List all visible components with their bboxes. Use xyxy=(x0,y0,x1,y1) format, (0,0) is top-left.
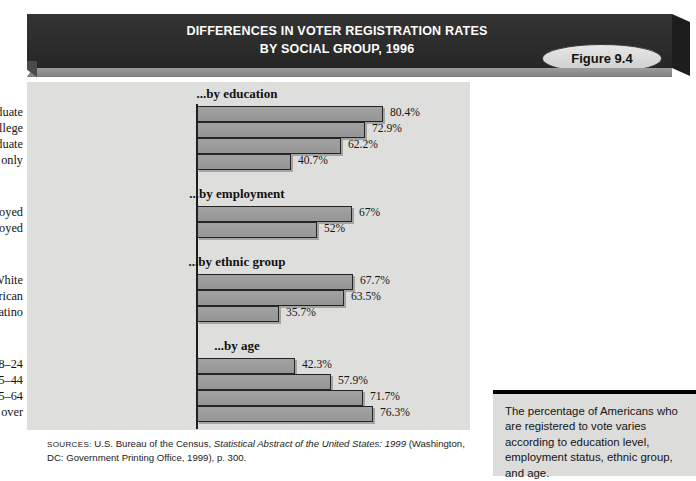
bar-row: Grade school only40.7% xyxy=(27,154,470,170)
bar xyxy=(197,206,352,222)
bar-row: 65 and over76.3% xyxy=(27,406,470,422)
caption-text: The percentage of Americans who are regi… xyxy=(505,404,685,481)
bar-value-label: 35.7% xyxy=(286,306,316,319)
bar-category-label: White xyxy=(0,273,23,288)
bar-row: Employed67% xyxy=(27,206,470,222)
bar-category-label: 45–64 xyxy=(0,389,23,404)
bar-row: African American63.5% xyxy=(27,290,470,306)
bar-category-label: Some college xyxy=(0,121,23,136)
bar-category-label: High school graduate xyxy=(0,137,23,152)
bar-category-label: College graduate xyxy=(0,105,23,120)
caption-top-rule xyxy=(493,390,696,394)
bar-category-label: 18–24 xyxy=(0,357,23,372)
figure-title-line1: DIFFERENCES IN VOTER REGISTRATION RATES xyxy=(49,22,626,40)
bar xyxy=(197,106,383,122)
banner-face: DIFFERENCES IN VOTER REGISTRATION RATES … xyxy=(27,14,672,68)
sources-label: SOURCES: xyxy=(47,440,92,449)
bar xyxy=(197,154,291,170)
bar xyxy=(197,406,373,422)
chart-panel: ...by educationCollege graduate80.4%Some… xyxy=(27,82,470,430)
banner-right-edge xyxy=(672,14,690,76)
bar-row: 45–6471.7% xyxy=(27,390,470,406)
bar-category-label: Employed xyxy=(0,205,23,220)
bar-category-label: African American xyxy=(0,289,23,304)
bar xyxy=(197,306,279,322)
bar-category-label: Grade school only xyxy=(0,153,23,168)
group-title-1: ...by education xyxy=(87,86,387,102)
bar xyxy=(197,374,331,390)
bar-value-label: 72.9% xyxy=(372,122,402,135)
bar-row: Latino35.7% xyxy=(27,306,470,322)
bar-category-label: Unemployed xyxy=(0,221,23,236)
bar-chart: ...by educationCollege graduate80.4%Some… xyxy=(27,82,470,430)
figure-header-banner: DIFFERENCES IN VOTER REGISTRATION RATES … xyxy=(27,14,690,76)
bar-value-label: 62.2% xyxy=(348,138,378,151)
group-title-3: ...by ethnic group xyxy=(87,254,387,270)
banner-bottom-edge xyxy=(27,68,672,77)
bar-row: Some college72.9% xyxy=(27,122,470,138)
bar-row: Unemployed52% xyxy=(27,222,470,238)
caption-box: The percentage of Americans who are regi… xyxy=(493,390,696,476)
bar-value-label: 52% xyxy=(324,222,345,235)
bar-value-label: 40.7% xyxy=(298,154,328,167)
bar-category-label: 65 and over xyxy=(0,405,23,420)
sources-note: SOURCES: U.S. Bureau of the Census, Stat… xyxy=(47,437,467,464)
bar-category-label: 25–44 xyxy=(0,373,23,388)
bar-row: White67.7% xyxy=(27,274,470,290)
bar-row: College graduate80.4% xyxy=(27,106,470,122)
bar xyxy=(197,290,344,306)
bar-value-label: 67.7% xyxy=(360,274,390,287)
sources-text-before: U.S. Bureau of the Census, xyxy=(92,438,214,449)
bar-value-label: 80.4% xyxy=(390,106,420,119)
bar-value-label: 71.7% xyxy=(370,390,400,403)
bar-value-label: 67% xyxy=(359,206,380,219)
bar xyxy=(197,274,353,290)
figure-title-line2: BY SOCIAL GROUP, 1996 xyxy=(49,40,626,58)
bar-value-label: 76.3% xyxy=(380,406,410,419)
bar-row: High school graduate62.2% xyxy=(27,138,470,154)
bar-row: 18–2442.3% xyxy=(27,358,470,374)
bar-category-label: Latino xyxy=(0,305,23,320)
bar-value-label: 57.9% xyxy=(338,374,368,387)
bar xyxy=(197,222,317,238)
bar xyxy=(197,122,365,138)
sources-italic-title: Statistical Abstract of the United State… xyxy=(214,438,406,449)
bar xyxy=(197,358,295,374)
bar-row: 25–4457.9% xyxy=(27,374,470,390)
group-title-4: ...by age xyxy=(87,338,387,354)
bar-value-label: 63.5% xyxy=(351,290,381,303)
bar xyxy=(197,390,363,406)
bar xyxy=(197,138,341,154)
bar-value-label: 42.3% xyxy=(302,358,332,371)
figure-title: DIFFERENCES IN VOTER REGISTRATION RATES … xyxy=(49,22,626,58)
group-title-2: ...by employment xyxy=(87,186,387,202)
